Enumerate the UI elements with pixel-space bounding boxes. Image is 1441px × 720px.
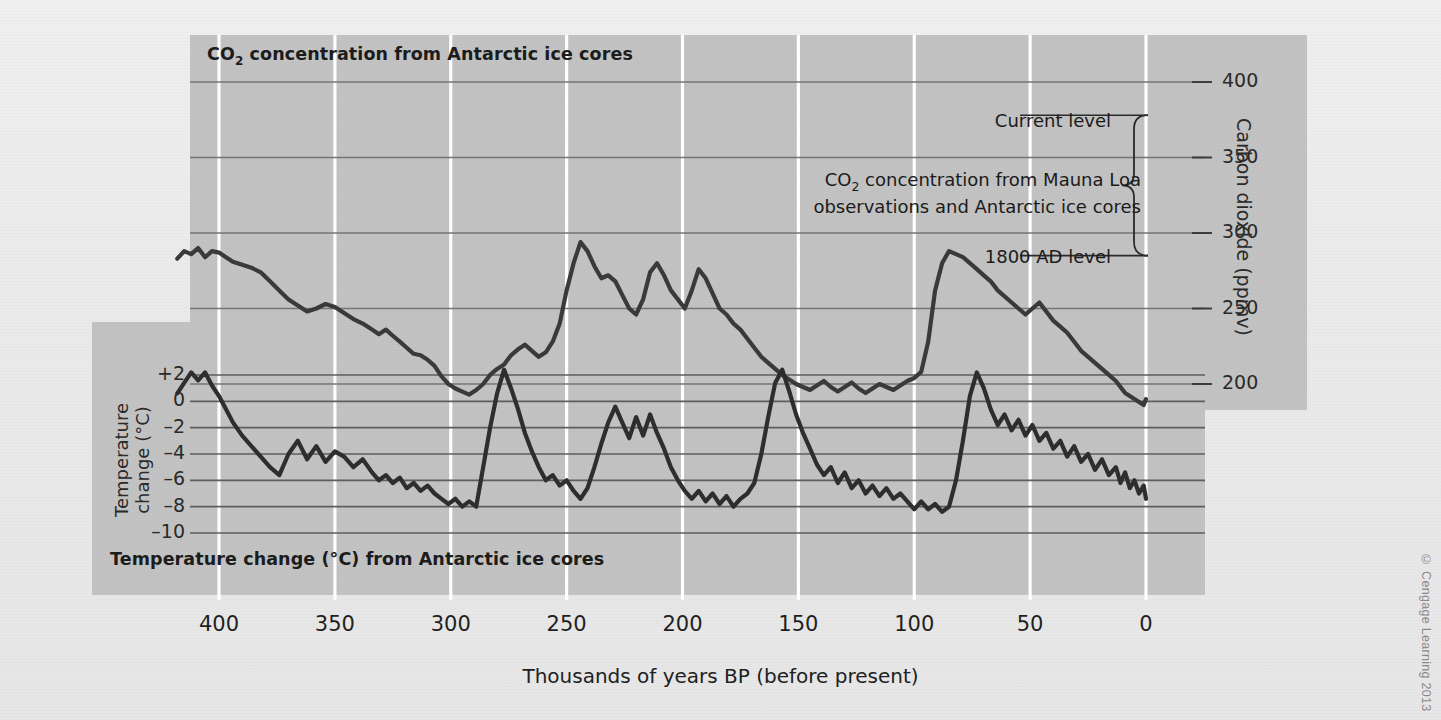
temperature-panel-title: Temperature change (°C) from Antarctic i… [110, 549, 604, 569]
x-axis-title: Thousands of years BP (before present) [0, 664, 1441, 688]
annotation-mauna-loa: CO2 concentration from Mauna Loa observa… [813, 168, 1141, 220]
x-axis-tick-label: 50 [1017, 612, 1044, 636]
annotation-mauna-loa-line1: CO2 concentration from Mauna Loa [825, 169, 1141, 190]
co2-tick-label: 350 [1222, 145, 1258, 167]
temperature-tick-label: –6 [120, 467, 185, 489]
annotation-1800-ad-level: 1800 AD level [985, 246, 1111, 267]
temperature-tick-label: –8 [120, 494, 185, 516]
co2-panel-title: CO2 concentration from Antarctic ice cor… [207, 44, 633, 68]
co2-tick-label: 300 [1222, 220, 1258, 242]
co2-tick-label: 400 [1222, 69, 1258, 91]
figure-root: CO2 concentration from Antarctic ice cor… [0, 0, 1441, 720]
x-axis-tick-label: 400 [199, 612, 239, 636]
temperature-tick-label: –10 [120, 520, 185, 542]
temperature-tick-label: –4 [120, 441, 185, 463]
copyright-credit: © Cengage Learning 2013 [1419, 553, 1433, 712]
x-axis-tick-label: 250 [547, 612, 587, 636]
temperature-tick-label: 0 [120, 388, 185, 410]
x-axis-tick-label: 150 [778, 612, 818, 636]
x-axis-tick-label: 300 [431, 612, 471, 636]
co2-tick-label: 250 [1222, 296, 1258, 318]
annotation-mauna-loa-line2: observations and Antarctic ice cores [813, 196, 1141, 217]
co2-tick-label: 200 [1222, 371, 1258, 393]
co2-tick-marks [1192, 82, 1212, 384]
x-axis-tick-label: 0 [1139, 612, 1152, 636]
annotation-current-level: Current level [995, 110, 1111, 131]
x-axis-tick-label: 100 [894, 612, 934, 636]
x-axis-tick-label: 350 [315, 612, 355, 636]
temperature-tick-label: +2 [120, 362, 185, 384]
x-axis-tick-label: 200 [662, 612, 702, 636]
co2-title-text: CO2 concentration from Antarctic ice cor… [207, 44, 633, 64]
temperature-curve [177, 370, 1146, 512]
temperature-tick-label: –2 [120, 415, 185, 437]
